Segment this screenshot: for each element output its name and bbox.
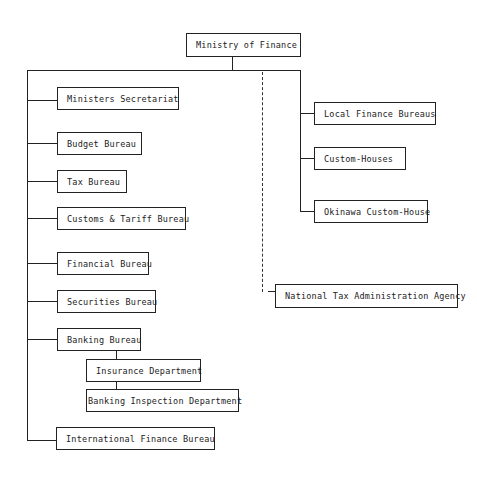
insurance-stem (116, 382, 117, 389)
node-custom-houses: Custom-Houses (314, 147, 406, 170)
agency-dashed-line (262, 72, 263, 292)
connector (27, 218, 57, 219)
connector (300, 211, 314, 212)
node-securities-bureau: Securities Bureau (57, 290, 156, 313)
agency-connector (268, 291, 275, 292)
node-local-finance-bureaus: Local Finance Bureaus (314, 102, 436, 125)
connector (300, 113, 314, 114)
node-national-tax-administration-agency: National Tax Administration Agency (275, 284, 458, 308)
connector (27, 100, 57, 101)
left-trunk (27, 70, 28, 441)
connector (27, 263, 57, 264)
banking-stem (116, 351, 117, 359)
node-banking-bureau: Banking Bureau (57, 328, 141, 351)
right-trunk (300, 70, 301, 212)
node-customs-tariff-bureau: Customs & Tariff Bureau (57, 207, 186, 230)
node-international-finance-bureau: International Finance Bureau (56, 427, 215, 450)
connector (27, 301, 57, 302)
connector (27, 339, 57, 340)
connector (300, 158, 314, 159)
node-ministry-of-finance: Ministry of Finance (186, 33, 301, 57)
connector (27, 181, 57, 182)
top-bus (27, 70, 301, 71)
node-ministers-secretariat: Ministers Secretariat (57, 87, 179, 110)
node-okinawa-custom-house: Okinawa Custom-House (314, 200, 428, 223)
node-insurance-department: Insurance Department (86, 359, 201, 382)
node-tax-bureau: Tax Bureau (57, 170, 127, 193)
node-financial-bureau: Financial Bureau (57, 252, 149, 275)
node-banking-inspection-department: Banking Inspection Department (86, 389, 239, 412)
connector (27, 440, 57, 441)
node-budget-bureau: Budget Bureau (57, 132, 142, 155)
connector (27, 143, 57, 144)
root-stem (232, 56, 233, 71)
